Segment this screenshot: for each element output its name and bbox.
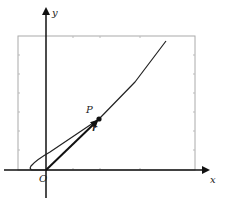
trajectory-curve [30, 41, 166, 170]
vector-r-label: r [92, 123, 98, 133]
y-axis-label: y [51, 7, 58, 18]
plot-frame [18, 36, 195, 170]
origin-label: O [39, 173, 47, 184]
point-p-marker [96, 116, 101, 121]
position-vector-diagram: y x O P r [0, 0, 230, 204]
x-axis-label: x [210, 174, 216, 185]
position-vector-r [46, 121, 97, 170]
point-p-label: P [85, 104, 93, 115]
